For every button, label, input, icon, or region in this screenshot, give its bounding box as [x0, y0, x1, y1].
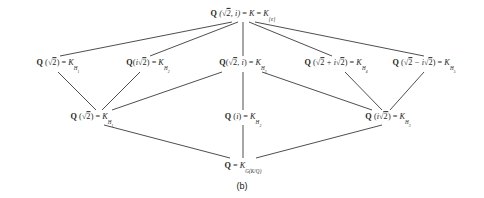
- node-r2-3-generators: (√2, i): [226, 58, 247, 67]
- node-r2-3-group-sub-index: 3: [265, 70, 267, 74]
- node-r2-5: Q (√2 − i√2)=KH5: [392, 59, 455, 69]
- edge-r2-1-to-r3-1: [58, 72, 96, 110]
- edge-top-to-r2-1: [60, 22, 232, 56]
- node-r2-1-group-sub: H1: [74, 65, 80, 71]
- node-r3-3-generators: (i√2): [372, 112, 391, 121]
- edge-r2-2-to-r3-1: [102, 72, 140, 110]
- node-r2-2-group-sub: H2: [164, 65, 170, 71]
- node-r2-4-group-sub: H4: [362, 65, 368, 71]
- node-bottom-group: K: [240, 161, 246, 170]
- node-r2-4-group-sub-index: 4: [366, 70, 368, 74]
- node-r2-1-eq: =: [60, 58, 69, 67]
- node-r2-3: Q(√2, i)=KH3: [219, 59, 267, 69]
- edge-top-to-r2-2: [150, 22, 238, 56]
- node-r3-1: Q (√2)=KH1: [70, 113, 113, 123]
- node-bottom-group-sub: G(K/Q): [245, 168, 261, 174]
- node-r2-5-generators: (√2 − i√2): [399, 58, 436, 67]
- edge-top-to-r2-4: [249, 22, 332, 56]
- node-r2-3-group-sub: H3: [261, 65, 267, 71]
- node-r2-1: Q (√2)=KH1: [36, 59, 79, 69]
- node-top-eq2: =: [255, 9, 264, 18]
- edge-r2-3-to-r3-3: [262, 72, 372, 110]
- node-r3-1-group-sub-index: 1: [112, 124, 114, 128]
- node-r3-2: Q (i)=KH2: [225, 113, 262, 123]
- node-r3-2-group-sub: H2: [256, 119, 262, 125]
- node-r2-4: Q (√2 + i√2)=KH4: [304, 59, 367, 69]
- node-bottom: Q=KG(K/Q): [225, 162, 262, 170]
- node-r2-3-eq: =: [247, 58, 256, 67]
- node-r2-1-group-sub-index: 1: [78, 70, 80, 74]
- node-top-group-sub: {e}: [269, 16, 276, 22]
- node-r3-1-eq: =: [94, 112, 103, 121]
- node-r3-2-generators: (i): [231, 112, 241, 121]
- node-top: Q (√2, i)=K=K{e}: [211, 10, 276, 18]
- edge-r3-3-to-bottom: [256, 125, 382, 158]
- node-r2-4-eq: =: [348, 58, 357, 67]
- figure-caption: (b): [237, 181, 248, 191]
- galois-lattice-diagram: Q (√2, i)=K=K{e} Q (√2)=KH1 Q(i√2)=KH2 Q…: [0, 0, 484, 198]
- node-r2-1-generators: (√2): [43, 58, 60, 67]
- node-r2-2-generators: (i√2): [133, 58, 150, 67]
- node-r3-3-eq: =: [391, 112, 400, 121]
- node-r2-5-group-sub: H5: [450, 65, 456, 71]
- node-r2-5-group-sub-index: 5: [454, 70, 456, 74]
- node-r3-3-group-sub-index: 3: [409, 124, 411, 128]
- edge-r2-3-to-r3-1: [112, 72, 222, 110]
- node-r2-4-generators: (√2 + i√2): [311, 58, 348, 67]
- node-r2-5-eq: =: [436, 58, 445, 67]
- node-r2-2-eq: =: [150, 58, 159, 67]
- node-top-generators: (√2, i): [217, 9, 240, 18]
- node-r2-2: Q(i√2)=KH2: [126, 59, 169, 69]
- node-r3-2-group-sub-index: 2: [259, 124, 261, 128]
- node-r3-3: Q (i√2)=KH3: [365, 113, 410, 123]
- edge-top-to-r2-5: [255, 22, 424, 56]
- edge-r3-1-to-bottom: [104, 125, 230, 158]
- node-r2-2-group-sub-index: 2: [168, 70, 170, 74]
- node-r3-1-group-sub: H1: [108, 119, 114, 125]
- edge-r2-4-to-r3-3: [345, 72, 382, 110]
- node-r3-3-group-sub: H3: [405, 119, 411, 125]
- edge-r2-5-to-r3-3: [390, 72, 424, 110]
- node-r3-1-generators: (√2): [77, 112, 94, 121]
- node-bottom-eq: =: [231, 161, 240, 170]
